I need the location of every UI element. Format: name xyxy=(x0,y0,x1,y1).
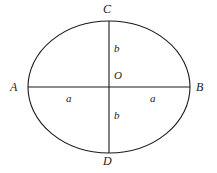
vertex-label-d: D xyxy=(103,155,112,167)
ellipse-diagram-canvas xyxy=(0,0,217,173)
semi-major-right-label: a xyxy=(150,93,156,104)
center-label: O xyxy=(114,70,122,81)
vertex-label-c: C xyxy=(103,3,111,15)
semi-major-left-label: a xyxy=(66,93,72,104)
vertex-label-a: A xyxy=(10,81,17,93)
vertex-label-b: B xyxy=(196,81,203,93)
semi-minor-lower-label: b xyxy=(114,110,120,121)
ellipse-diagram: C D A B b O b a a xyxy=(0,0,217,173)
semi-minor-upper-label: b xyxy=(114,43,120,54)
